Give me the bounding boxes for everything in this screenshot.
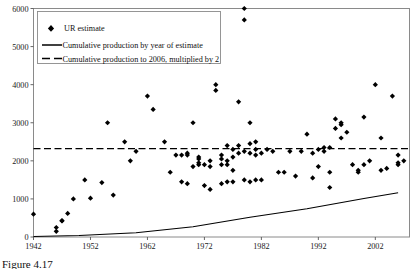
legend-entry-cumulative-production: Cumulative production by year of estimat… <box>42 41 203 50</box>
x-axis: 1942195219621972198219922002 <box>25 237 383 251</box>
y-tick-label-1: 1000 <box>12 195 28 204</box>
figure-container: 0100020003000400050006000 19421952196219… <box>0 0 420 269</box>
y-tick-label-4: 4000 <box>12 81 28 90</box>
legend-entry-cumulative-x2: Cumulative production to 2006, multiplie… <box>42 55 219 64</box>
y-tick-label-2: 2000 <box>12 157 28 166</box>
x-tick-label-3: 1972 <box>196 242 212 251</box>
legend-label-0: UR estimate <box>64 24 105 33</box>
legend-label-1: Cumulative production by year of estimat… <box>63 41 204 50</box>
x-tick-label-0: 1942 <box>25 242 41 251</box>
y-tick-label-3: 3000 <box>12 119 28 128</box>
y-axis: 0100020003000400050006000 <box>12 5 33 243</box>
x-tick-label-4: 1982 <box>253 242 269 251</box>
y-tick-label-6: 6000 <box>12 5 28 14</box>
x-tick-label-1: 1952 <box>82 242 98 251</box>
scatter-chart: 0100020003000400050006000 19421952196219… <box>0 0 420 269</box>
x-tick-label-6: 2002 <box>367 242 383 251</box>
x-tick-label-5: 1992 <box>310 242 326 251</box>
figure-caption: Figure 4.17 <box>2 258 53 269</box>
y-tick-label-0: 0 <box>24 233 28 242</box>
x-tick-label-2: 1962 <box>139 242 155 251</box>
legend: UR estimate Cumulative production by yea… <box>38 12 221 64</box>
y-tick-label-5: 5000 <box>12 43 28 52</box>
legend-label-2: Cumulative production to 2006, multiplie… <box>63 55 220 64</box>
